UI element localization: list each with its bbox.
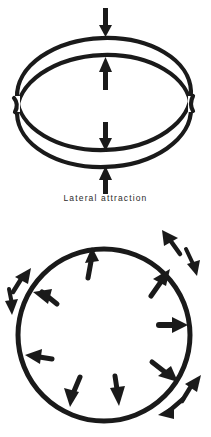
- ring-merge-joins: [14, 96, 193, 112]
- arrow-lower-gap-down-shaft: [103, 122, 108, 140]
- outside-arrow-upper-right-inward: [162, 230, 180, 254]
- outside-arrow-left-outward: [5, 289, 18, 315]
- arrow-top-down-head: [99, 25, 112, 37]
- lateral-attraction-caption: Lateral attraction: [0, 193, 211, 203]
- arrow-bottom-up: [99, 166, 112, 194]
- ring-merge-join-right: [191, 96, 193, 111]
- lateral-attraction-diagram: Lateral attraction: [0, 0, 211, 216]
- arrow-upper-gap-up-head: [99, 57, 112, 72]
- outside-arrow-lower-right-inward-head: [158, 405, 174, 419]
- radial-forces-diagram: [0, 216, 211, 437]
- inside-arrow-bottom-right: [110, 376, 125, 406]
- inside-arrow-left: [25, 349, 52, 364]
- radial-forces-svg: [0, 216, 211, 437]
- figure-root: Lateral attraction: [0, 0, 211, 437]
- inside-arrow-left-head: [25, 349, 42, 364]
- inside-arrow-bottom-left: [64, 377, 80, 407]
- outside-arrow-left-outward-head: [5, 299, 18, 315]
- outside-arrow-upper-left-inward: [13, 268, 31, 292]
- outside-arrow-upper-right-inward-shaft: [170, 240, 180, 254]
- outside-arrow-lower-right-outward: [182, 375, 201, 401]
- outside-arrow-right-upper-outward-head: [187, 260, 200, 276]
- inside-arrow-upper-left-head: [33, 289, 52, 304]
- arrow-upper-gap-up-shaft: [103, 70, 108, 90]
- arrow-lower-gap-down: [99, 122, 112, 151]
- arrow-upper-gap-up: [99, 57, 112, 90]
- inside-arrow-upper-left: [33, 289, 57, 304]
- outside-arrow-right-upper-outward: [186, 249, 200, 276]
- inside-arrow-lower-right: [152, 362, 178, 382]
- inside-arrow-right: [159, 317, 188, 333]
- inside-arrow-bottom-right-head: [110, 386, 125, 406]
- arrow-top-down: [99, 8, 112, 37]
- arrow-top-down-shaft: [103, 8, 108, 27]
- ring-merge-masks: [14, 96, 195, 112]
- lateral-attraction-svg: [0, 0, 211, 216]
- inside-arrow-right-head: [172, 317, 188, 333]
